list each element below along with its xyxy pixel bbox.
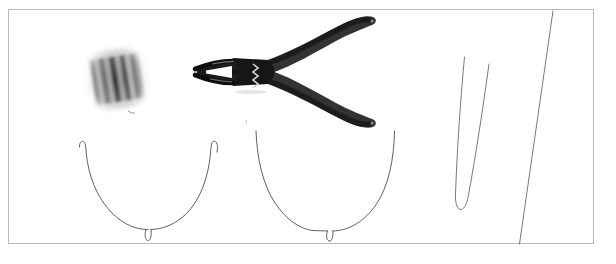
photo-content (0, 0, 616, 264)
pliers-handle-tip-lower (371, 122, 374, 125)
photo-stage: Photograph of a spool of wire, a pair of… (0, 0, 616, 264)
pliers-shadow (235, 90, 267, 94)
photo-surface (9, 10, 593, 243)
wire-spool (77, 39, 157, 119)
pliers-handle-tip-upper (371, 20, 374, 23)
